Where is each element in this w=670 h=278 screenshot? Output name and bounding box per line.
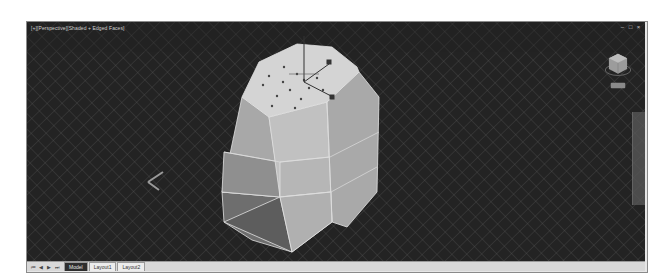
3d-viewport[interactable]: [+][Perspective][Shaded + Edged Faces] –… [27, 22, 645, 261]
viewport-window-controls: – □ × [620, 25, 641, 30]
tab-navigation: ⏮ ◀ ▶ ⏭ [27, 264, 60, 270]
next-tab-icon[interactable]: ▶ [46, 264, 52, 270]
navigation-bar[interactable] [632, 112, 645, 205]
viewcube-icon[interactable] [603, 50, 633, 90]
tab-model[interactable]: Model [64, 262, 88, 271]
scene-canvas[interactable] [27, 22, 645, 261]
viewport-label[interactable]: [+][Perspective][Shaded + Edged Faces] [31, 25, 125, 31]
tab-layout2[interactable]: Layout2 [117, 262, 145, 271]
nav-home-button[interactable] [611, 83, 626, 88]
tab-layout1[interactable]: Layout1 [89, 262, 117, 271]
prev-tab-icon[interactable]: ◀ [38, 264, 44, 270]
last-tab-icon[interactable]: ⏭ [54, 264, 60, 270]
minimize-icon[interactable]: – [620, 25, 625, 30]
layout-tab-bar: ⏮ ◀ ▶ ⏭ Model Layout1 Layout2 [27, 261, 645, 271]
close-icon[interactable]: × [636, 25, 641, 30]
restore-icon[interactable]: □ [628, 25, 633, 30]
first-tab-icon[interactable]: ⏮ [30, 264, 36, 270]
